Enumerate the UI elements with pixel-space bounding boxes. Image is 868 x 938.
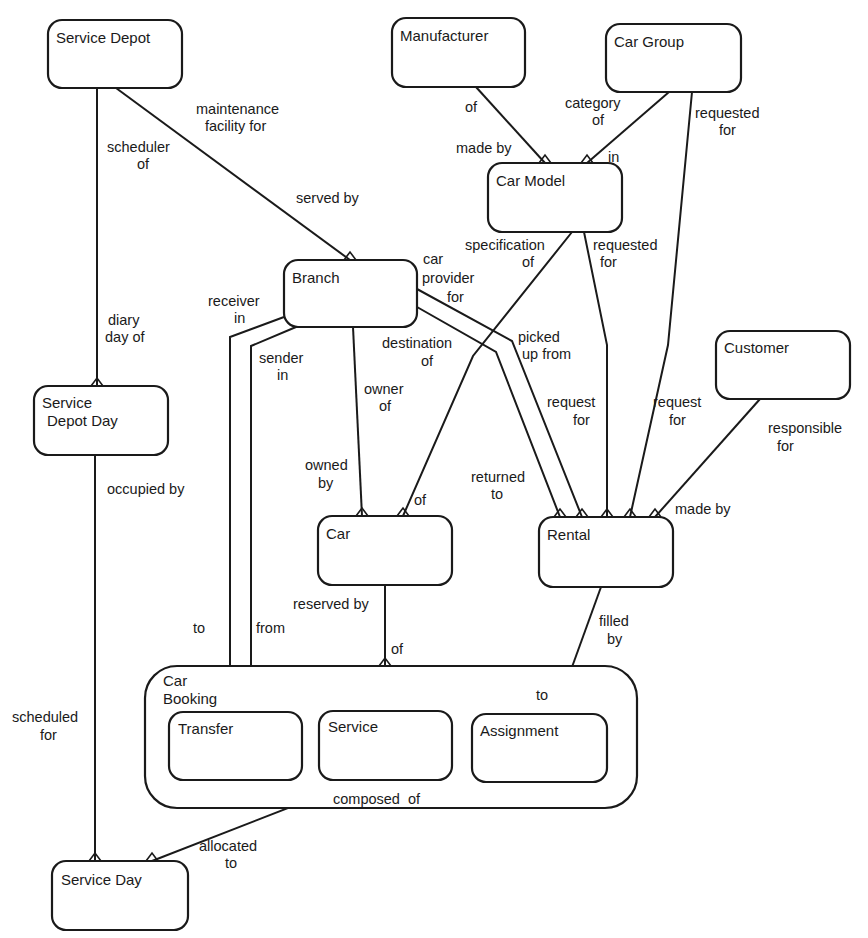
crow-depot-day-top [91, 378, 103, 386]
label-reserved-by: reserved by [293, 596, 370, 612]
label-scheduler-line2: of [137, 156, 150, 172]
line-model-to-rental [584, 232, 607, 517]
label-composed-of: composed of [333, 791, 421, 807]
entity-label: Rental [547, 526, 590, 543]
entity-label: Transfer [178, 720, 233, 737]
entity-label: Assignment [480, 722, 559, 739]
line-branch-receiver-to-transfer [230, 317, 284, 712]
label-returned-line2: to [491, 486, 503, 502]
label-picked-up-line2: up from [522, 346, 571, 362]
label-specification-line2: of [522, 254, 535, 270]
label-responsible-line2: for [777, 438, 794, 454]
entity-label-line1: Car [163, 672, 187, 689]
label-diary-line2: day of [105, 329, 145, 345]
label-destination-line2: of [421, 353, 434, 369]
label-model-requested-line1: requested [593, 237, 658, 253]
line-group-to-rental [630, 92, 692, 517]
line-branch-to-car [353, 327, 362, 516]
label-owner-line2: of [379, 398, 392, 414]
label-occupied-by: occupied by [107, 481, 185, 497]
entity-label: Car Model [496, 172, 565, 189]
label-transfer-from: from [256, 620, 285, 636]
label-picked-up-line1: picked [518, 329, 560, 345]
label-sender-line2: in [277, 367, 288, 383]
label-request-group-line2: for [669, 412, 686, 428]
er-diagram: Service Depot Manufacturer Car Group Car… [0, 0, 868, 938]
entity-branch[interactable]: Branch [284, 260, 417, 327]
label-made-by: made by [456, 140, 512, 156]
entity-service-depot[interactable]: Service Depot [48, 20, 182, 88]
label-request-model-line1: request [547, 394, 595, 410]
entity-label-line1: Service [42, 394, 92, 411]
entity-car-group[interactable]: Car Group [606, 24, 741, 92]
entity-rental[interactable]: Rental [539, 517, 673, 587]
entity-label-line2: Booking [163, 690, 217, 707]
label-car-provider-line3: for [447, 289, 464, 305]
label-scheduled-line1: scheduled [12, 709, 78, 725]
entity-service[interactable]: Service [319, 711, 452, 780]
label-assignment-to: to [536, 687, 548, 703]
entity-label: Service Day [61, 871, 142, 888]
label-responsible-line1: responsible [768, 420, 842, 436]
entity-label: Manufacturer [400, 27, 488, 44]
entity-label: Car Group [614, 33, 684, 50]
label-filled-line1: filled [599, 613, 629, 629]
label-car-provider-line2: provider [422, 270, 475, 286]
label-rental-made-by: made by [675, 501, 731, 517]
entity-service-day[interactable]: Service Day [52, 861, 188, 930]
label-manufacturer-of: of [465, 99, 478, 115]
label-specification-line1: specification [465, 237, 545, 253]
label-category-line1: category [565, 95, 621, 111]
entity-label: Car [326, 525, 350, 542]
label-receiver-line2: in [234, 310, 245, 326]
label-in: in [608, 149, 619, 165]
line-branch-sender-to-transfer [251, 327, 296, 712]
entity-label: Branch [292, 269, 340, 286]
label-booking-of: of [391, 641, 404, 657]
entity-car[interactable]: Car [318, 516, 452, 585]
label-allocated-line2: to [225, 855, 237, 871]
label-group-requested-line1: requested [695, 105, 760, 121]
label-request-model-line2: for [573, 412, 590, 428]
label-car-of: of [414, 492, 427, 508]
label-sender-line1: sender [259, 350, 304, 366]
label-category-line2: of [592, 112, 605, 128]
label-car-provider-line1: car [423, 251, 443, 267]
entity-manufacturer[interactable]: Manufacturer [392, 18, 525, 87]
entity-car-model[interactable]: Car Model [488, 163, 622, 232]
entity-label: Service [328, 718, 378, 735]
label-scheduler-line1: scheduler [107, 139, 170, 155]
label-maintenance-line1: maintenance [196, 101, 279, 117]
label-diary-line1: diary [108, 312, 140, 328]
label-owned-line1: owned [305, 457, 348, 473]
entity-customer[interactable]: Customer [716, 331, 850, 399]
label-model-requested-line2: for [600, 254, 617, 270]
label-allocated-line1: allocated [199, 838, 257, 854]
entity-label-line2: Depot Day [47, 412, 118, 429]
label-returned-line1: returned [471, 469, 525, 485]
entity-transfer[interactable]: Transfer [169, 712, 302, 780]
label-transfer-to: to [193, 620, 205, 636]
entity-service-depot-day[interactable]: Service Depot Day [34, 386, 168, 455]
label-served-by: served by [296, 190, 360, 206]
entity-label: Customer [724, 339, 789, 356]
label-filled-line2: by [607, 631, 623, 647]
label-owned-line2: by [318, 475, 334, 491]
crow-service-day-allocated [146, 853, 158, 861]
entity-label: Service Depot [56, 29, 151, 46]
label-owner-line1: owner [364, 381, 404, 397]
label-receiver-line1: receiver [208, 293, 260, 309]
label-scheduled-line2: for [40, 727, 57, 743]
label-maintenance-line2: facility for [205, 118, 266, 134]
label-group-requested-line2: for [719, 122, 736, 138]
label-destination-line1: destination [382, 335, 452, 351]
entity-assignment[interactable]: Assignment [472, 714, 607, 782]
label-request-group-line1: request [653, 394, 701, 410]
